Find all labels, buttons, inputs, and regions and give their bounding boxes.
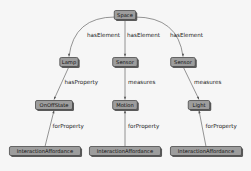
node-sensor2: Sensor [171, 58, 197, 69]
edge-label: hasElement [170, 32, 204, 38]
node-ia3: InteractionAffordance [170, 147, 243, 158]
edge-label: measures [194, 79, 221, 85]
edge-label: hasElement [127, 32, 161, 38]
edge-label: forProperty [53, 123, 85, 130]
node-label: Motion [116, 102, 134, 108]
node-label: Sensor [174, 59, 193, 65]
node-sensor1: Sensor [113, 58, 139, 69]
arrowhead-icon [124, 97, 126, 100]
edge-label: measures [128, 79, 155, 85]
arrowhead-icon [182, 54, 184, 57]
ontology-diagram: hasElementhasElementhasElementhasPropert… [0, 0, 251, 171]
node-label: Lamp [62, 59, 77, 66]
node-ia1: InteractionAffordance [9, 147, 82, 158]
edge-label: forProperty [206, 123, 238, 130]
arrowhead-icon [124, 54, 126, 57]
edge-label: hasElement [87, 32, 121, 38]
edge-label: hasProperty [65, 79, 99, 86]
node-ia2: InteractionAffordance [89, 147, 162, 158]
node-light: Light [188, 101, 211, 112]
node-space: Space [114, 11, 137, 22]
arrowhead-icon [68, 54, 70, 57]
node-label: Light [193, 102, 206, 109]
node-label: Sensor [116, 59, 135, 65]
node-onoff: OnOffState [36, 101, 75, 112]
node-label: OnOffState [40, 102, 69, 108]
node-label: InteractionAffordance [97, 148, 153, 154]
edge-label: forProperty [128, 123, 160, 130]
edge-ia3-light [199, 111, 206, 147]
node-motion: Motion [113, 101, 139, 112]
node-label: InteractionAffordance [17, 148, 73, 154]
edge-ia1-onoff [45, 111, 54, 147]
node-label: InteractionAffordance [178, 148, 234, 154]
node-label: Space [117, 12, 133, 19]
node-lamp: Lamp [60, 58, 80, 69]
